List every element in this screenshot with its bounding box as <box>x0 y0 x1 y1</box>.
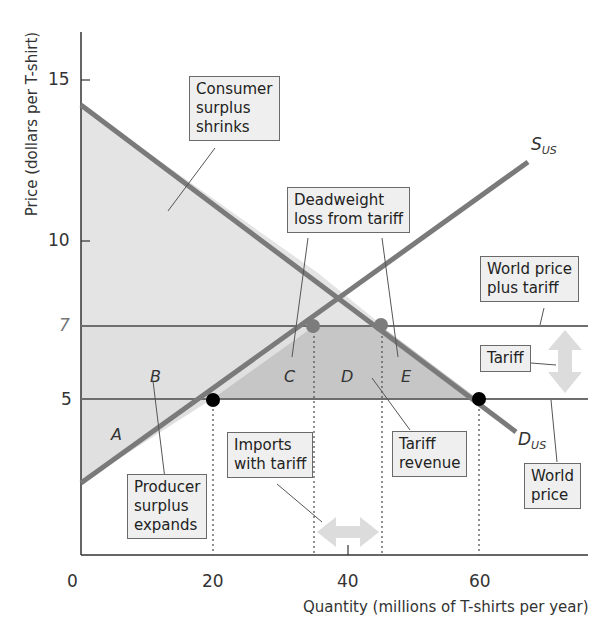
producer-surplus-label: Producer surplus expands <box>127 474 207 539</box>
area-d-label: D <box>341 367 353 386</box>
y-tick-15: 15 <box>48 69 70 89</box>
y-axis-label: Price (dollars per T-shirt) <box>23 19 41 229</box>
area-c-label: C <box>284 367 295 386</box>
point-supply-world <box>206 393 220 407</box>
area-e-label: E <box>401 367 411 386</box>
x-tick-40: 40 <box>337 571 359 591</box>
x-tick-60: 60 <box>469 571 491 591</box>
deadweight-loss-label: Deadweight loss from tariff <box>287 187 410 233</box>
world-price-plus-tariff-label: World price plus tariff <box>480 256 579 302</box>
demand-curve-label: DUS <box>518 429 546 452</box>
point-demand-world <box>472 392 486 406</box>
x-axis-label: Quantity (millions of T-shirts per year) <box>303 598 589 616</box>
tariff-arrow-icon <box>548 330 582 393</box>
consumer-surplus-label: Consumer surplus shrinks <box>189 76 280 141</box>
tariff-revenue-label: Tariff revenue <box>392 431 467 477</box>
point-demand-tariff <box>374 318 388 332</box>
y-tick-5: 5 <box>61 389 72 409</box>
imports-with-tariff-label: Imports with tariff <box>227 432 313 478</box>
y-tick-7: 7 <box>59 315 70 335</box>
y-tick-10: 10 <box>48 230 70 250</box>
x-tick-20: 20 <box>202 571 224 591</box>
tariff-label: Tariff <box>480 345 531 372</box>
world-price-label: World price <box>524 463 581 509</box>
chart-canvas <box>0 0 604 623</box>
point-supply-tariff <box>306 319 320 333</box>
area-a-label: A <box>111 425 122 444</box>
x-tick-0: 0 <box>67 571 78 591</box>
area-b-label: B <box>150 367 161 386</box>
imports-arrow-icon <box>317 517 379 547</box>
supply-curve-label: SUS <box>531 134 557 157</box>
